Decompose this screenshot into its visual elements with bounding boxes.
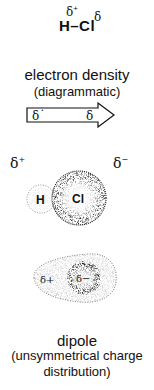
dipole-caption-line1: (unsymmetrical charge: [0, 348, 154, 363]
polarity-arrow-icon: δ˙ δ: [24, 102, 120, 128]
formula-hcl: H–Cl: [0, 17, 154, 34]
arrow-label-right: δ: [86, 109, 93, 123]
electron-density-subtitle: (diagrammatic): [0, 84, 154, 99]
dipole-caption-line2: distribution): [0, 364, 154, 379]
dipole-title: dipole: [0, 332, 154, 349]
dipole-inner-left: δ+: [40, 274, 54, 285]
orbital-label-h: H: [36, 193, 45, 207]
electron-density-title: electron density: [0, 66, 154, 83]
orbital-label-cl: Cl: [72, 192, 84, 206]
formula-atom-h: H: [59, 17, 70, 34]
dipole-inner-right: δ−: [76, 273, 90, 284]
arrow-label-left: δ˙: [32, 109, 45, 123]
electron-cloud-diagram: H Cl: [0, 150, 154, 240]
dipole-cloud-diagram: δ+ δ−: [0, 248, 154, 310]
formula-bond: –: [70, 17, 79, 34]
formula-atom-cl: Cl: [79, 17, 95, 34]
